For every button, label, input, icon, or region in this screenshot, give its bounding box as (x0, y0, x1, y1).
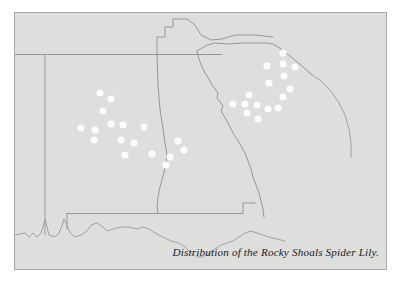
occurrence-dot (279, 93, 286, 100)
occurrence-dot (130, 139, 137, 146)
occurrence-dot (91, 126, 98, 133)
map-frame (14, 12, 387, 270)
occurrence-dot (180, 146, 187, 153)
occurrence-dot (90, 136, 97, 143)
occurrence-dot (140, 123, 147, 130)
occurrence-dot (166, 153, 173, 160)
map-caption: Distribution of the Rocky Shoals Spider … (172, 246, 379, 258)
occurrence-dot (99, 107, 106, 114)
occurrence-dot (77, 124, 84, 131)
occurrence-dot (279, 49, 286, 56)
occurrence-dot (291, 63, 298, 70)
occurrence-dot (279, 60, 286, 67)
occurrence-dot (121, 151, 128, 158)
occurrence-dot (243, 109, 250, 116)
occurrence-dot (264, 105, 271, 112)
occurrence-dot (107, 120, 114, 127)
occurrence-dot (148, 150, 155, 157)
occurrence-dot (253, 101, 260, 108)
occurrence-dot (263, 62, 270, 69)
occurrence-dot (96, 89, 103, 96)
occurrence-dot (117, 136, 124, 143)
occurrence-dot (107, 95, 114, 102)
occurrence-dot (254, 115, 261, 122)
occurrence-dot (280, 72, 287, 79)
occurrence-dot (274, 104, 281, 111)
occurrence-dot (229, 100, 236, 107)
map-background (15, 13, 386, 269)
occurrence-dot (174, 137, 181, 144)
occurrence-dot (162, 161, 169, 168)
occurrence-dot (265, 79, 272, 86)
occurrence-dot (241, 100, 248, 107)
map-canvas (15, 13, 386, 269)
distribution-map-figure: Distribution of the Rocky Shoals Spider … (0, 0, 401, 282)
occurrence-dot (119, 121, 126, 128)
occurrence-dot (245, 91, 252, 98)
occurrence-dot (286, 85, 293, 92)
